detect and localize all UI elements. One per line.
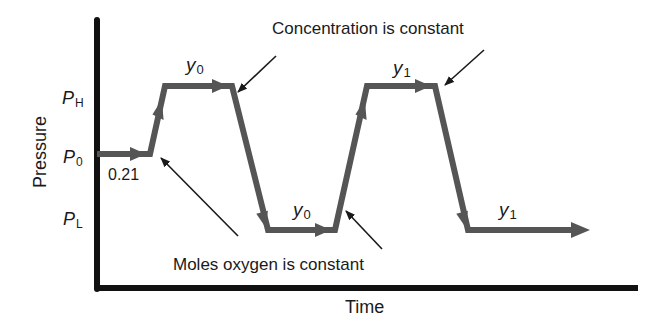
segment-label-high1: y0	[186, 55, 204, 76]
arrow-right-icon	[212, 79, 228, 93]
level-label-p0: P0	[63, 148, 83, 168]
initial-concentration-label: 0.21	[108, 167, 139, 183]
segment-label-low2: y1	[499, 200, 517, 221]
pointer-arrow-concentration-1	[238, 56, 276, 92]
direction-arrows	[130, 79, 590, 238]
annotation-moles-oxygen-constant: Moles oxygen is constant	[173, 256, 364, 273]
level-label-pl: PL	[63, 210, 83, 230]
arrow-right-icon	[571, 222, 590, 238]
arrow-right-icon	[315, 223, 331, 237]
arrow-right-icon	[130, 147, 146, 161]
annotation-pointers	[161, 50, 484, 249]
y-axis-title: Pressure	[31, 114, 49, 190]
pointer-arrow-concentration-2	[445, 50, 484, 85]
x-axis-title: Time	[345, 298, 384, 316]
annotation-concentration-constant: Concentration is constant	[272, 20, 464, 37]
pressure-swing-diagram: Pressure PH P0 PL 0.21 y0 y0 y1 y1 Conce…	[0, 0, 669, 330]
level-label-ph: PH	[62, 89, 84, 109]
arrow-right-icon	[415, 79, 431, 93]
segment-label-high2: y1	[393, 58, 411, 79]
diagram-canvas	[0, 0, 669, 330]
pointer-arrow-moles-2	[346, 211, 382, 249]
segment-label-low1: y0	[293, 200, 311, 221]
pointer-arrow-moles-1	[161, 158, 238, 236]
